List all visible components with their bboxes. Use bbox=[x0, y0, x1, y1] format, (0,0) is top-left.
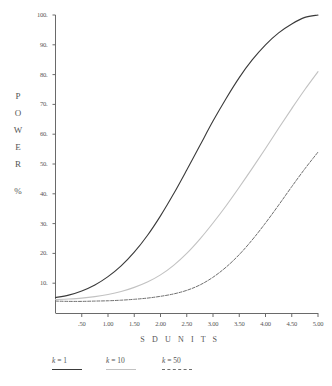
y-axis-tick-label: 80. bbox=[22, 71, 48, 78]
x-axis-tick-label: 5.00 bbox=[303, 320, 332, 327]
y-axis-tick-label: 60. bbox=[22, 130, 48, 137]
y-axis-tick-label: 100. bbox=[22, 11, 48, 18]
chart-legend: k = 1 k = 10 k = 50 bbox=[52, 356, 282, 382]
axis-lines bbox=[56, 15, 319, 314]
legend-item: k = 1 bbox=[52, 356, 100, 365]
legend-swatch-k50 bbox=[162, 369, 192, 373]
legend-item: k = 50 bbox=[162, 356, 210, 365]
series-line-k1 bbox=[56, 15, 319, 298]
legend-label-value: = 10 bbox=[109, 356, 124, 365]
y-axis-tick-label: 40. bbox=[22, 190, 48, 197]
legend-label-value: = 1 bbox=[55, 356, 67, 365]
y-axis-tick-label: 50. bbox=[22, 160, 48, 167]
series-line-k10 bbox=[56, 72, 319, 300]
y-axis-tick-label: 90. bbox=[22, 41, 48, 48]
legend-label: k = 1 bbox=[52, 356, 100, 365]
legend-label: k = 10 bbox=[106, 356, 154, 365]
y-axis-tick-label: 10. bbox=[22, 279, 48, 286]
series-line-k50 bbox=[56, 152, 319, 301]
legend-label-value: = 50 bbox=[165, 356, 180, 365]
legend-swatch-k10 bbox=[106, 369, 136, 373]
legend-item: k = 10 bbox=[106, 356, 154, 365]
y-axis-tick-label: 70. bbox=[22, 100, 48, 107]
data-curves bbox=[56, 15, 319, 301]
x-axis-label: S D U N I T S bbox=[60, 335, 300, 344]
power-curve-chart: P O W E R % 10.20.30.40.50.60.70.80.90.1… bbox=[0, 0, 332, 386]
legend-swatch-k1 bbox=[52, 369, 82, 373]
y-axis-tick-label: 30. bbox=[22, 220, 48, 227]
legend-label: k = 50 bbox=[162, 356, 210, 365]
plot-area bbox=[0, 0, 332, 386]
y-axis-tick-label: 20. bbox=[22, 249, 48, 256]
